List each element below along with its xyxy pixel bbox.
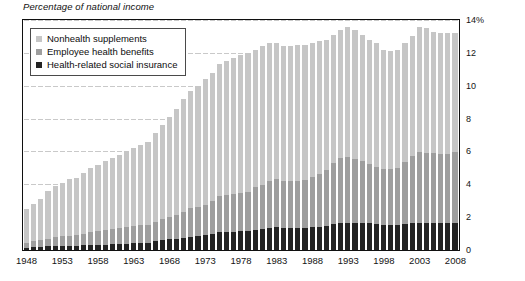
y-tick-label: 4 [466,179,471,189]
bar-segment-nonhealth-supplements [452,33,457,152]
bar-segment-health-related-social-insurance [45,246,50,250]
bar-segment-nonhealth-supplements [45,191,50,239]
legend-item-label: Nonhealth supplements [47,32,147,45]
bar-segment-employee-health-benefits [45,239,50,247]
bar-segment-health-related-social-insurance [103,245,108,250]
bar-segment-health-related-social-insurance [360,223,365,250]
x-tick-label: 2008 [445,255,466,266]
bar-segment-employee-health-benefits [88,232,93,245]
bar-segment-employee-health-benefits [331,163,336,225]
bar-1973 [202,20,209,250]
bar-segment-nonhealth-supplements [345,27,350,157]
bar-segment-health-related-social-insurance [174,239,179,251]
bar-1991 [330,20,337,250]
bar-segment-health-related-social-insurance [253,230,258,250]
legend-item-nonhealth-supplements: Nonhealth supplements [36,32,177,45]
bar-1982 [266,20,273,250]
y-tick-label: 10 [466,81,476,91]
bar-segment-health-related-social-insurance [267,228,272,250]
bar-segment-nonhealth-supplements [238,55,243,194]
bar-1974 [209,20,216,250]
legend-swatch-icon [36,36,42,42]
y-tick-label: 0 [466,245,471,255]
bar-segment-employee-health-benefits [424,153,429,223]
bar-1988 [309,20,316,250]
bar-segment-nonhealth-supplements [438,33,443,154]
bar-segment-employee-health-benefits [217,196,222,232]
bar-segment-health-related-social-insurance [295,228,300,250]
bar-segment-nonhealth-supplements [402,43,407,162]
bar-segment-employee-health-benefits [167,217,172,239]
bar-segment-employee-health-benefits [402,162,407,225]
bar-segment-health-related-social-insurance [302,228,307,250]
bar-segment-employee-health-benefits [38,240,43,247]
bar-segment-health-related-social-insurance [431,223,436,250]
bar-segment-employee-health-benefits [203,205,208,235]
bar-segment-health-related-social-insurance [167,239,172,250]
bar-segment-nonhealth-supplements [53,186,58,237]
bar-1980 [252,20,259,250]
bar-1995 [359,20,366,250]
bar-segment-nonhealth-supplements [88,168,93,232]
bar-segment-employee-health-benefits [260,185,265,229]
bar-segment-employee-health-benefits [395,168,400,226]
bar-segment-nonhealth-supplements [138,145,143,226]
bar-segment-health-related-social-insurance [195,236,200,250]
bar-segment-health-related-social-insurance [367,223,372,250]
bar-segment-nonhealth-supplements [445,33,450,154]
bar-segment-health-related-social-insurance [324,226,329,250]
x-tick-label: 1988 [302,255,323,266]
bar-segment-nonhealth-supplements [302,45,307,180]
bar-segment-employee-health-benefits [174,215,179,239]
bar-segment-health-related-social-insurance [145,243,150,250]
x-tick-label: 1993 [338,255,359,266]
bar-segment-health-related-social-insurance [124,244,129,250]
bar-2004 [423,20,430,250]
bar-segment-health-related-social-insurance [331,224,336,250]
bar-segment-health-related-social-insurance [138,243,143,250]
x-tick-label: 2003 [409,255,430,266]
bar-segment-health-related-social-insurance [88,245,93,250]
bar-segment-health-related-social-insurance [438,223,443,250]
bar-segment-employee-health-benefits [381,169,386,225]
bar-segment-health-related-social-insurance [274,227,279,250]
chart-legend: Nonhealth supplements Employee health be… [30,28,186,76]
bar-segment-nonhealth-supplements [417,27,422,153]
bar-segment-nonhealth-supplements [110,158,115,229]
bar-2006 [437,20,444,250]
bar-segment-health-related-social-insurance [452,223,457,250]
bar-segment-health-related-social-insurance [217,232,222,250]
y-tick-label: 8 [466,114,471,124]
chart-figure: Percentage of national income Nonhealth … [0,0,525,281]
bar-segment-nonhealth-supplements [60,183,65,237]
bar-segment-nonhealth-supplements [81,173,86,234]
bar-1971 [187,20,194,250]
bar-segment-nonhealth-supplements [224,61,229,195]
bar-segment-health-related-social-insurance [95,245,100,250]
bar-segment-employee-health-benefits [124,227,129,243]
bar-1990 [323,20,330,250]
bar-segment-health-related-social-insurance [445,223,450,250]
bar-segment-nonhealth-supplements [381,50,386,170]
bar-segment-employee-health-benefits [374,167,379,224]
x-tick-label: 1973 [195,255,216,266]
bar-1981 [259,20,266,250]
bar-1983 [273,20,280,250]
bar-2007 [444,20,451,250]
bar-2003 [416,20,423,250]
bar-segment-nonhealth-supplements [145,142,150,225]
bar-segment-nonhealth-supplements [174,109,179,215]
bar-segment-nonhealth-supplements [74,178,79,235]
bar-segment-employee-health-benefits [253,187,258,230]
bar-segment-health-related-social-insurance [153,241,158,250]
y-tick-label: 6 [466,146,471,156]
bar-segment-nonhealth-supplements [260,46,265,185]
bar-segment-nonhealth-supplements [67,179,72,235]
bar-segment-health-related-social-insurance [374,224,379,250]
y-tick-label: 14% [466,15,484,25]
y-tick-label: 2 [466,212,471,222]
bar-segment-nonhealth-supplements [188,91,193,209]
bar-segment-employee-health-benefits [267,181,272,228]
bar-1989 [316,20,323,250]
legend-item-label: Health-related social insurance [47,58,177,71]
